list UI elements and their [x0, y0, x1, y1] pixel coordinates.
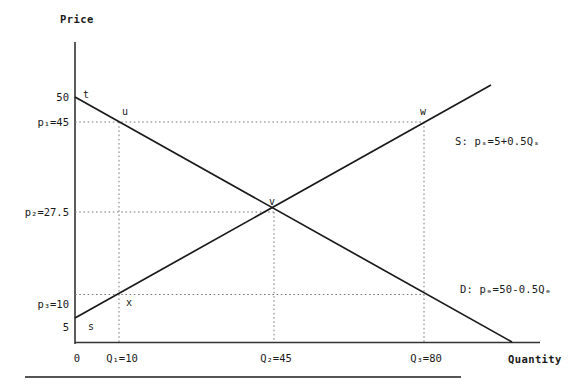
point-label-x: x: [126, 298, 132, 308]
y-tick-5: 5: [63, 322, 69, 333]
point-label-v: v: [269, 197, 275, 207]
demand-equation-label: D: pₔ=50-0.5Qₔ: [460, 284, 551, 295]
chart-canvas: [0, 0, 580, 389]
point-label-u: u: [122, 107, 128, 117]
y-axis-title: Price: [60, 14, 94, 25]
x-tick-q1: Q₁=10: [106, 353, 138, 364]
footer-divider: [25, 376, 461, 378]
x-axis-title: Quantity: [508, 354, 562, 365]
y-tick-50: 50: [56, 92, 69, 103]
supply-equation-label: S: pₛ=5+0.5Qₛ: [455, 136, 540, 147]
x-tick-0: 0: [74, 353, 80, 364]
y-tick-p1: p₁=45: [37, 117, 69, 128]
supply-demand-figure: Price Quantity 50 p₁=45 p₂=27.5 p₃=10 5 …: [0, 0, 580, 389]
point-label-s: s: [88, 322, 94, 332]
point-label-w: w: [420, 107, 426, 117]
demand-curve: [75, 97, 512, 342]
y-tick-p3: p₃=10: [37, 299, 69, 310]
x-tick-q2: Q₂=45: [260, 353, 292, 364]
y-tick-p2: p₂=27.5: [25, 207, 69, 218]
point-label-t: t: [83, 90, 89, 100]
supply-curve: [75, 85, 491, 318]
x-tick-q3: Q₃=80: [410, 353, 442, 364]
